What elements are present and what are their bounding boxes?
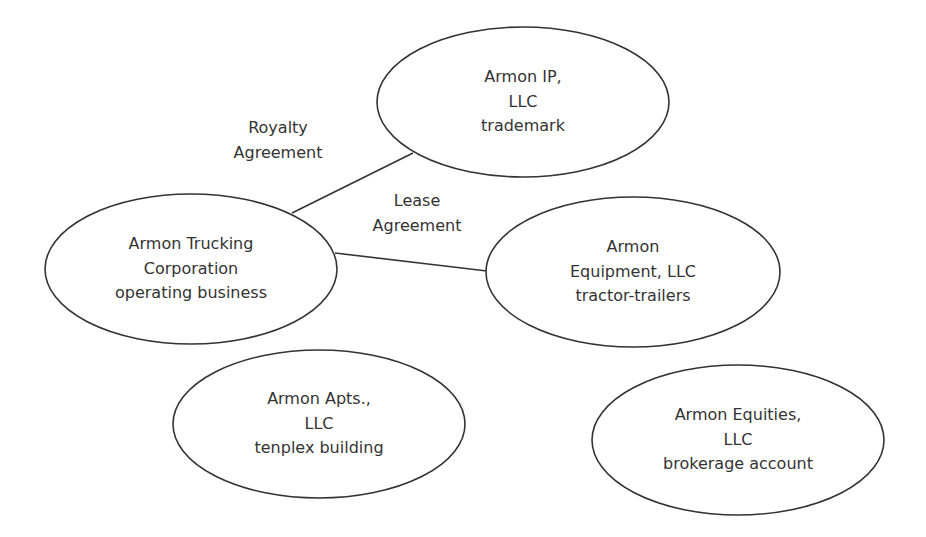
node-armon-equipment-label: Armon Equipment, LLC tractor-trailers (570, 235, 696, 309)
edge-lease-agreement (335, 253, 487, 271)
node-line: Equipment, LLC (570, 260, 696, 285)
node-line: LLC (254, 412, 383, 437)
node-armon-trucking-label: Armon Trucking Corporation operating bus… (115, 232, 267, 306)
edge-label-royalty-agreement: Royalty Agreement (234, 116, 323, 165)
node-line: Armon (570, 235, 696, 260)
node-line: Armon Equities, (663, 403, 813, 428)
node-armon-apts-label: Armon Apts., LLC tenplex building (254, 387, 383, 461)
edge-label-line: Lease (373, 189, 462, 214)
node-line: trademark (481, 114, 565, 139)
node-line: Corporation (115, 257, 267, 282)
node-line: Armon Apts., (254, 387, 383, 412)
node-armon-equities-label: Armon Equities, LLC brokerage account (663, 403, 813, 477)
edge-label-line: Agreement (373, 213, 462, 238)
edge-label-line: Agreement (234, 140, 323, 165)
node-line: LLC (663, 428, 813, 453)
node-line: brokerage account (663, 452, 813, 477)
node-armon-ip-label: Armon IP, LLC trademark (481, 65, 565, 139)
node-line: operating business (115, 281, 267, 306)
node-line: tractor-trailers (570, 284, 696, 309)
edge-label-line: Royalty (234, 116, 323, 141)
node-line: Armon IP, (481, 65, 565, 90)
edge-label-lease-agreement: Lease Agreement (373, 189, 462, 238)
node-line: tenplex building (254, 436, 383, 461)
node-line: Armon Trucking (115, 232, 267, 257)
node-line: LLC (481, 90, 565, 115)
